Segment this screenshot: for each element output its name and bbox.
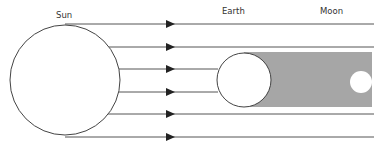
arrow-icon (166, 133, 175, 141)
moon-circle (350, 71, 372, 93)
arrow-icon (166, 88, 175, 96)
moon-label: Moon (320, 6, 343, 16)
arrow-icon (166, 110, 175, 118)
earth-circle (217, 53, 271, 107)
sun-circle (10, 25, 120, 135)
sun-label: Sun (56, 10, 72, 20)
earth-label: Earth (222, 6, 245, 16)
arrow-icon (166, 20, 175, 28)
arrow-icon (166, 43, 175, 51)
arrow-icon (166, 65, 175, 73)
ray-arrowheads (166, 20, 175, 141)
lunar-eclipse-diagram: Sun Earth Moon (0, 0, 383, 152)
